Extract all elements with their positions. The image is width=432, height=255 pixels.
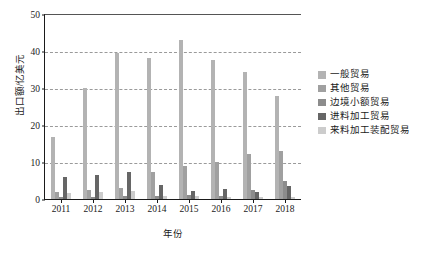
legend-label: 边境小额贸易 <box>330 98 390 108</box>
bar <box>115 53 119 199</box>
x-tick-mark <box>221 199 222 203</box>
x-tick-mark <box>189 199 190 203</box>
x-tick-mark <box>157 199 158 203</box>
legend-swatch-icon <box>318 113 326 121</box>
y-tick-label: 10 <box>31 158 41 168</box>
legend-item[interactable]: 进料加工贸易 <box>318 112 410 122</box>
legend-label: 来料加工装配贸易 <box>330 126 410 136</box>
bar <box>183 166 187 199</box>
bar-group <box>77 15 109 199</box>
bar <box>83 88 87 199</box>
bar <box>195 196 199 199</box>
x-tick-label: 2018 <box>255 204 315 214</box>
plot-area: 0102030405020112012201320142015201620172… <box>44 14 301 200</box>
y-tick-label: 20 <box>31 121 41 131</box>
bar <box>227 197 231 199</box>
y-tick-mark <box>42 199 45 200</box>
legend-item[interactable]: 边境小额贸易 <box>318 98 410 108</box>
bar <box>259 197 263 199</box>
x-tick-mark <box>253 199 254 203</box>
bar <box>163 196 167 199</box>
legend-swatch-icon <box>318 99 326 107</box>
bar-group <box>205 15 237 199</box>
legend-item[interactable]: 其他贸易 <box>318 84 410 94</box>
bar-group <box>45 15 77 199</box>
chart-figure: 出口额/亿美元 01020304050201120122013201420152… <box>0 0 432 255</box>
bar <box>131 191 135 200</box>
bar <box>51 137 55 199</box>
bar <box>151 172 155 199</box>
bar <box>215 162 219 199</box>
y-tick-label: 40 <box>31 47 41 57</box>
legend-item[interactable]: 一般贸易 <box>318 70 410 80</box>
y-tick-label: 50 <box>31 10 41 20</box>
legend-swatch-icon <box>318 127 326 135</box>
bar <box>99 192 103 199</box>
legend-label: 进料加工贸易 <box>330 112 390 122</box>
x-axis-title: 年份 <box>44 226 301 240</box>
x-tick-mark <box>125 199 126 203</box>
chart-legend: 一般贸易其他贸易边境小额贸易进料加工贸易来料加工装配贸易 <box>318 70 410 135</box>
bar <box>67 193 71 199</box>
bar-group <box>141 15 173 199</box>
y-axis-title: 出口额/亿美元 <box>12 20 26 150</box>
legend-label: 其他贸易 <box>330 84 370 94</box>
legend-label: 一般贸易 <box>330 70 370 80</box>
x-tick-mark <box>285 199 286 203</box>
y-tick-label: 30 <box>31 84 41 94</box>
bar-group <box>109 15 141 199</box>
legend-swatch-icon <box>318 71 326 79</box>
x-tick-mark <box>61 199 62 203</box>
legend-swatch-icon <box>318 85 326 93</box>
bar-group <box>173 15 205 199</box>
x-tick-mark <box>93 199 94 203</box>
legend-item[interactable]: 来料加工装配贸易 <box>318 126 410 136</box>
bar <box>291 197 295 199</box>
bar-group <box>269 15 301 199</box>
plot-inner: 0102030405020112012201320142015201620172… <box>45 15 301 199</box>
bar-group <box>237 15 269 199</box>
